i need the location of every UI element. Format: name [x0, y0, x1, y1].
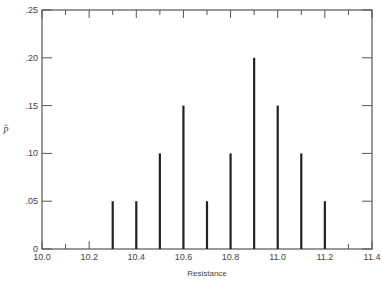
bars [113, 58, 325, 249]
x-tick-label: 10.8 [222, 252, 240, 262]
probability-spike-chart: 10.010.210.410.610.811.011.211.4 0.05.10… [0, 0, 382, 281]
y-tick-label: .10 [25, 148, 38, 158]
x-tick-label: 11.0 [269, 252, 286, 262]
y-axis-title: p̂ [3, 123, 9, 134]
x-tick-label: 10.4 [128, 252, 146, 262]
y-tick-labels: 0.05.10.15.20.25 [25, 5, 38, 254]
x-tick-label: 10.2 [80, 252, 98, 262]
x-tick-label: 11.2 [316, 252, 333, 262]
x-tick-label: 10.6 [175, 252, 193, 262]
y-tick-label: 0 [33, 244, 38, 254]
x-axis-title: Resistance [187, 269, 227, 278]
x-tick-label: 11.4 [364, 252, 381, 262]
x-tick-labels: 10.010.210.410.610.811.011.211.4 [33, 252, 380, 262]
y-tick-label: .20 [25, 53, 38, 63]
y-tick-label: .25 [25, 5, 38, 15]
y-tick-label: .05 [25, 196, 38, 206]
y-tick-label: .15 [25, 101, 38, 111]
